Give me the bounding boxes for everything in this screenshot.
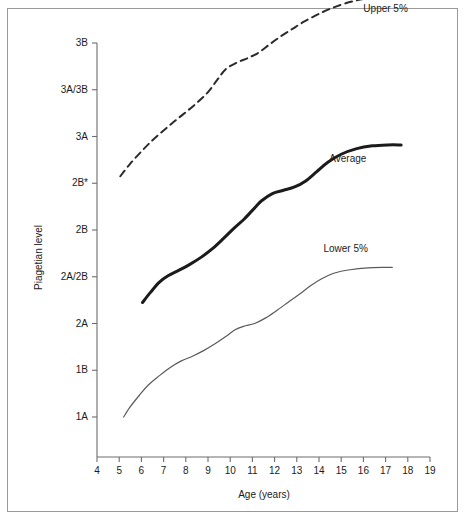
x-tick-label: 14 — [313, 466, 324, 476]
series-paths — [120, 0, 401, 417]
x-tick-label: 7 — [161, 466, 167, 476]
x-axis-title: Age (years) — [238, 489, 290, 500]
x-tick-label: 10 — [225, 466, 236, 476]
x-tick-label: 17 — [380, 466, 391, 476]
tick-marks — [92, 43, 430, 462]
x-tick-label: 8 — [183, 466, 189, 476]
x-tick-label: 9 — [205, 466, 211, 476]
y-tick-label: 2A — [38, 319, 88, 329]
x-tick-label: 16 — [358, 466, 369, 476]
axis-lines — [97, 43, 430, 457]
x-tick-label: 4 — [94, 466, 100, 476]
series-label-upper-5: Upper 5% — [363, 2, 407, 13]
x-tick-label: 15 — [336, 466, 347, 476]
y-tick-label: 3B — [38, 38, 88, 48]
x-tick-label: 6 — [139, 466, 145, 476]
x-tick-label: 12 — [269, 466, 280, 476]
chart-figure: 3B3A/3B3A2B*2B2A/2B2A1B1A 45678910111213… — [0, 0, 472, 527]
y-tick-label: 1A — [38, 412, 88, 422]
x-tick-label: 19 — [424, 466, 435, 476]
series-line-average — [143, 145, 402, 303]
y-tick-label: 2B — [38, 225, 88, 235]
x-tick-label: 11 — [247, 466, 257, 476]
x-tick-label: 5 — [116, 466, 122, 476]
y-tick-label: 1B — [38, 365, 88, 375]
series-label-lower-5: Lower 5% — [323, 242, 367, 253]
series-label-average: Average — [329, 152, 366, 163]
x-tick-label: 13 — [291, 466, 302, 476]
series-line-lower-5 — [124, 267, 393, 417]
y-tick-label: 2A/2B — [38, 272, 88, 282]
plot-area — [0, 0, 472, 527]
y-tick-label: 3A — [38, 132, 88, 142]
x-tick-label: 18 — [402, 466, 413, 476]
y-tick-label: 2B* — [38, 178, 88, 188]
y-tick-label: 3A/3B — [38, 85, 88, 95]
y-axis-title: Piagetian level — [33, 225, 44, 290]
